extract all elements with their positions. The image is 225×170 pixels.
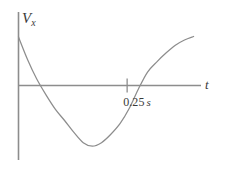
tick-value-number: 0.25 bbox=[123, 95, 144, 109]
tick-value-label: 0.25s bbox=[123, 96, 151, 108]
x-axis-label: t bbox=[205, 78, 209, 91]
y-axis-symbol: V bbox=[22, 10, 31, 26]
tick-value-unit: s bbox=[147, 96, 151, 108]
y-axis-label: Vx bbox=[22, 11, 36, 28]
y-axis-subscript: x bbox=[31, 17, 35, 28]
velocity-time-graph-figure: Vx t 0.25s bbox=[0, 0, 225, 170]
